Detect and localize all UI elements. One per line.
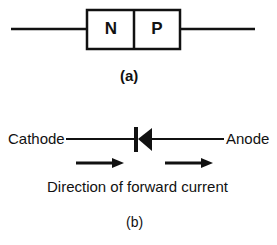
cathode-label: Cathode: [8, 130, 65, 147]
pn-junction-figure: [11, 10, 255, 49]
cathode-bar-icon: [134, 127, 138, 152]
diode-symbol-figure: [66, 127, 224, 168]
n-region-label: N: [91, 19, 131, 39]
forward-current-arrow-left-icon: [76, 158, 124, 168]
diode-triangle-icon: [138, 128, 152, 151]
figure-b-caption: (b): [126, 214, 143, 230]
forward-current-arrow-right-icon: [165, 158, 213, 168]
forward-current-label: Direction of forward current: [47, 178, 228, 195]
anode-label: Anode: [226, 130, 269, 147]
p-region-label: P: [137, 19, 177, 39]
figure-a-caption: (a): [120, 67, 138, 84]
